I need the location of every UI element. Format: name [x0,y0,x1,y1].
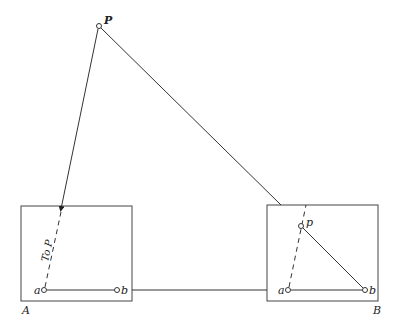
point-b-b [363,288,368,293]
point-a-b [115,288,120,293]
ray-b-dashed [289,205,306,287]
label-box-b: B [372,304,381,317]
label-b-a: a [278,284,285,297]
label-a-b: b [121,284,128,297]
point-b-a [286,288,291,293]
label-b-p: p [306,216,313,229]
label-to-p: To P [39,239,54,263]
plane-table-diagram: P a b A To P a b p B [0,0,400,326]
label-box-a: A [21,304,30,317]
ray-to-p-solid [61,29,98,209]
point-b-p [299,224,304,229]
ray-p-to-b [101,28,281,205]
label-b-b: b [369,284,376,297]
point-a-a [42,288,47,293]
label-P: P [103,14,113,27]
label-a-a: a [34,284,41,297]
ray-b-to-p [303,228,363,288]
point-p [97,24,102,29]
